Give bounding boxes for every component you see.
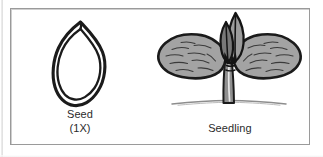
scan-edge-bottom: [0, 155, 323, 157]
seed-scale-label: (1X): [10, 122, 150, 135]
scan-edge-left: [1, 0, 3, 157]
seed-apex-point: [81, 22, 82, 29]
panel-seedling: Seedling: [150, 8, 310, 145]
botanical-figure: Seed (1X): [0, 0, 323, 157]
panel-seed: Seed (1X): [10, 8, 150, 145]
seed-caption-label: Seed: [10, 108, 150, 121]
stem-highlight: [229, 62, 230, 101]
seedling-caption-label: Seedling: [150, 122, 310, 135]
collar-mark-upper: [227, 66, 235, 67]
